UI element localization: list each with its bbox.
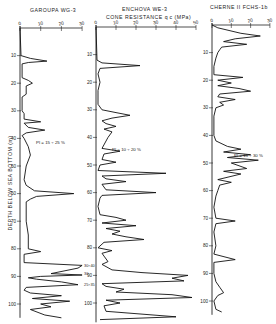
x-tick-label: 30 [267,17,273,23]
y-tick-label: 60 [87,190,93,195]
y-tick-label: 10 [87,52,93,57]
panel-garoupa: 0102030102030405060708090100PI = 15 ÷ 25… [8,20,94,317]
y-tick-label: 10 [203,50,209,55]
profile-line-garoupa [20,28,82,318]
side-label: 25÷35 [84,283,95,287]
x-tick-label: 20 [247,17,253,23]
x-tick-label: 10 [37,20,43,26]
x-tick-label: 0 [210,18,214,24]
y-tick-label: 100 [200,299,208,304]
y-tick-label: 30 [203,105,209,110]
x-tick-label: 0 [18,21,22,27]
side-label: 30÷40 [84,264,95,268]
cone-resistance-chart: GAROUPA WG-3 ENCHOVA WE-3 CHERNE II FCHS… [0,0,276,324]
y-tick-label: 30 [87,107,93,112]
y-tick-label: 70 [11,219,17,224]
y-tick-label: 50 [203,161,209,166]
panel-enchova: 01020304050102030405060708090100PI = 10 … [84,19,199,322]
y-tick-label: 60 [203,188,209,193]
x-tick-label: 30 [153,19,159,25]
x-tick-label: 10 [228,17,234,23]
y-tick-label: 70 [203,216,209,221]
y-tick-label: 40 [11,136,17,141]
x-tick-label: 30 [79,20,85,26]
y-tick-label: 70 [87,218,93,223]
pi-annotation-garoupa: PI = 15 ÷ 25 % [36,140,65,145]
pi-annotation-enchova: PI = 10 ÷ 20 % [112,147,141,152]
y-tick-label: 90 [203,271,209,276]
y-tick-label: 50 [11,164,17,169]
x-tick-label: 20 [133,19,139,25]
y-tick-label: 30 [11,108,17,113]
y-tick-label: 90 [11,274,17,279]
y-tick-label: 50 [87,163,93,168]
y-tick-label: 60 [11,191,17,196]
x-tick-label: 40 [173,19,179,25]
pi-annotation-cherne: PI = 15 ÷ 30 % [234,153,263,158]
y-tick-label: 20 [87,80,93,85]
profile-line-enchova [96,27,192,320]
y-tick-label: 40 [203,133,209,138]
y-tick-label: 80 [11,246,17,251]
y-tick-label: 10 [11,53,17,58]
plot-area: 0102030102030405060708090100PI = 15 ÷ 25… [0,0,276,324]
y-tick-label: 80 [87,245,93,250]
x-tick-label: 0 [94,20,98,26]
y-tick-label: 20 [11,81,17,86]
x-tick-label: 50 [193,19,199,25]
y-tick-label: 20 [203,78,209,83]
x-tick-label: 10 [113,19,119,25]
y-tick-label: 80 [203,243,209,248]
y-tick-label: 40 [87,135,93,140]
y-tick-label: 100 [84,301,92,306]
panel-cherne: 0102030102030405060708090100PI = 15 ÷ 30… [200,17,273,314]
y-tick-label: 90 [87,273,93,278]
y-tick-label: 100 [8,302,16,307]
x-tick-label: 20 [58,20,64,26]
profile-line-cherne [212,25,260,312]
